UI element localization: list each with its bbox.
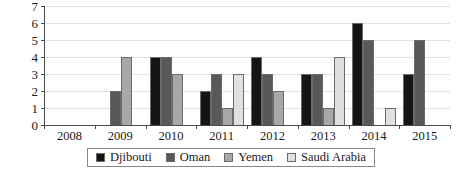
bar-yemen-2013 — [323, 108, 334, 125]
x-axis-tick-label: 2011 — [196, 128, 247, 144]
x-axis-tick-label: 2012 — [247, 128, 298, 144]
x-axis-tick-labels: 20082009201020112012201320142015 — [44, 128, 450, 144]
bar-djibouti-2015 — [403, 74, 414, 125]
y-axis-tick-labels: 01234567 — [18, 6, 38, 125]
bar-djibouti-2012 — [251, 57, 262, 125]
y-axis-tick-label: 3 — [32, 68, 39, 81]
plot-wrapper: 01234567 2008200920102011201220132014201… — [0, 0, 462, 140]
bar-djibouti-2010 — [150, 57, 161, 125]
bar-oman-2010 — [161, 57, 172, 125]
legend-item-yemen[interactable]: Yemen — [224, 150, 273, 164]
bar-oman-2012 — [262, 74, 273, 125]
bar-group-2008 — [45, 6, 96, 125]
bar-yemen-2012 — [273, 91, 284, 125]
bar-oman-2013 — [312, 74, 323, 125]
bar-oman-2015 — [414, 40, 425, 125]
legend-swatch-icon — [96, 153, 105, 162]
legend-item-saudi-arabia[interactable]: Saudi Arabia — [287, 150, 366, 164]
bar-yemen-2009 — [121, 57, 132, 125]
x-axis-tick-label: 2014 — [349, 128, 400, 144]
bar-saudi-arabia-2011 — [233, 74, 244, 125]
legend-item-oman[interactable]: Oman — [166, 150, 211, 164]
bar-djibouti-2011 — [200, 91, 211, 125]
y-axis-tick-label: 6 — [32, 17, 39, 30]
legend-swatch-icon — [224, 153, 233, 162]
bar-group-2011 — [197, 6, 248, 125]
legend-item-djibouti[interactable]: Djibouti — [96, 150, 152, 164]
bar-chart: 01234567 2008200920102011201220132014201… — [0, 0, 462, 172]
x-axis-tick-label: 2008 — [44, 128, 95, 144]
bar-oman-2014 — [363, 40, 374, 125]
x-axis-tick-label: 2013 — [298, 128, 349, 144]
bar-group-2009 — [96, 6, 147, 125]
x-axis-tick-label: 2010 — [146, 128, 197, 144]
x-axis-tick-label: 2009 — [95, 128, 146, 144]
bar-group-2015 — [399, 6, 450, 125]
chart-legend: DjiboutiOmanYemenSaudi Arabia — [87, 148, 375, 167]
y-axis-tick-label: 0 — [32, 119, 39, 132]
bar-group-2012 — [248, 6, 299, 125]
bar-saudi-arabia-2013 — [334, 57, 345, 125]
x-axis-tick-mark — [450, 125, 451, 129]
y-axis-tick-label: 7 — [32, 0, 39, 13]
legend-swatch-icon — [166, 153, 175, 162]
bar-oman-2009 — [110, 91, 121, 125]
y-axis-tick-label: 2 — [32, 85, 39, 98]
legend-label: Oman — [180, 150, 211, 164]
bar-saudi-arabia-2014 — [385, 108, 396, 125]
bar-djibouti-2014 — [352, 23, 363, 125]
legend-swatch-icon — [287, 153, 296, 162]
legend-label: Djibouti — [110, 150, 152, 164]
bar-oman-2011 — [211, 74, 222, 125]
legend-label: Saudi Arabia — [301, 150, 366, 164]
bar-groups — [45, 6, 450, 125]
bar-group-2013 — [298, 6, 349, 125]
legend-label: Yemen — [238, 150, 273, 164]
x-axis-tick-label: 2015 — [399, 128, 450, 144]
bar-yemen-2011 — [222, 108, 233, 125]
bar-djibouti-2013 — [301, 74, 312, 125]
plot-area — [44, 6, 450, 126]
y-axis-tick-label: 1 — [32, 102, 39, 115]
y-axis-tick-label: 5 — [32, 34, 39, 47]
y-axis-tick-label: 4 — [32, 51, 39, 64]
bar-group-2010 — [146, 6, 197, 125]
bar-yemen-2010 — [172, 74, 183, 125]
bar-group-2014 — [349, 6, 400, 125]
